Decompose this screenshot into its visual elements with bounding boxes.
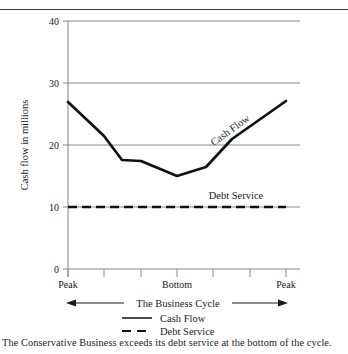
chart-canvas: 40 30 20 10 0 Cash flow in millions Peak… [0, 0, 348, 354]
y-tick-label-10: 10 [49, 202, 59, 213]
debt-service-inline-label: Debt Service [209, 190, 264, 201]
series-cash-flow [68, 101, 286, 176]
gridlines [68, 21, 300, 269]
x-tick-marks [68, 269, 286, 277]
legend-item-debt-service[interactable]: Debt Service [122, 326, 215, 337]
legend-label-debt-service: Debt Service [160, 326, 215, 337]
business-cycle-annotation: The Business Cycle [66, 298, 288, 309]
cycle-label: The Business Cycle [136, 298, 220, 309]
legend-item-cash-flow[interactable]: Cash Flow [122, 313, 206, 324]
y-tick-label-40: 40 [49, 16, 59, 27]
cycle-arrowhead-right [278, 300, 288, 307]
cycle-arrowhead-left [66, 300, 76, 307]
y-tick-marks [63, 21, 68, 269]
y-axis-title: Cash flow in millions [19, 100, 30, 191]
legend-label-cash-flow: Cash Flow [160, 313, 206, 324]
figure-container: 40 30 20 10 0 Cash flow in millions Peak… [0, 0, 348, 354]
y-tick-label-30: 30 [49, 78, 59, 89]
x-tick-label-bottom: Bottom [162, 279, 192, 290]
legend: Cash Flow Debt Service [122, 313, 215, 337]
y-tick-label-0: 0 [54, 264, 59, 275]
figure-caption: The Conservative Business exceeds its de… [2, 337, 348, 348]
x-tick-label-peak-left: Peak [58, 279, 77, 290]
x-tick-label-peak-right: Peak [276, 279, 295, 290]
y-tick-label-20: 20 [49, 140, 59, 151]
